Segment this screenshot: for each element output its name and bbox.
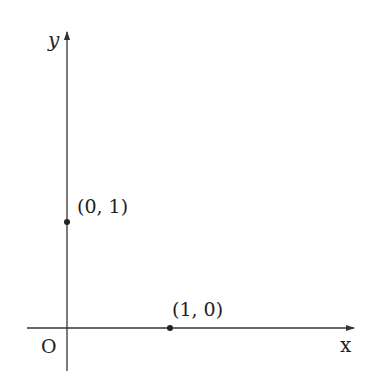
y-axis-label: y [47, 28, 60, 52]
origin-label: O [41, 335, 57, 357]
x-axis-label: x [340, 333, 352, 357]
point-0-1 [64, 219, 70, 225]
coordinate-diagram: y x O (0, 1) (1, 0) [0, 0, 379, 389]
point-label-1-0: (1, 0) [172, 298, 223, 320]
point-label-0-1: (0, 1) [77, 195, 128, 217]
point-1-0 [167, 325, 173, 331]
